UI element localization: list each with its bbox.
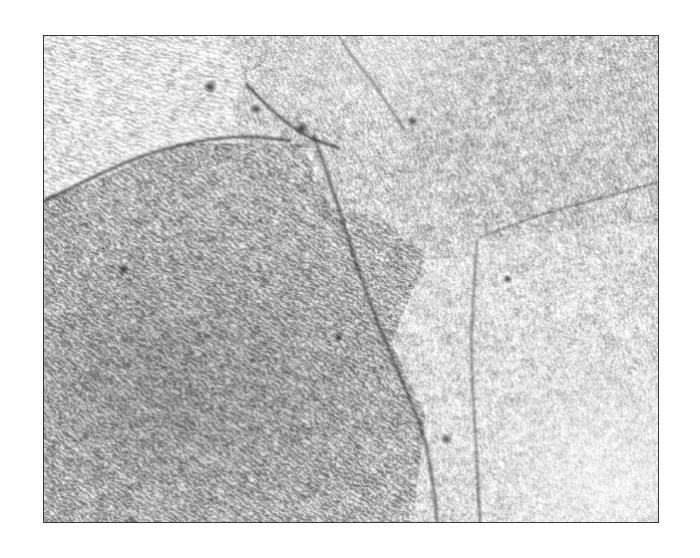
tem-micrograph-image <box>44 36 658 522</box>
page-root <box>0 0 700 558</box>
micrograph-frame <box>43 35 659 523</box>
